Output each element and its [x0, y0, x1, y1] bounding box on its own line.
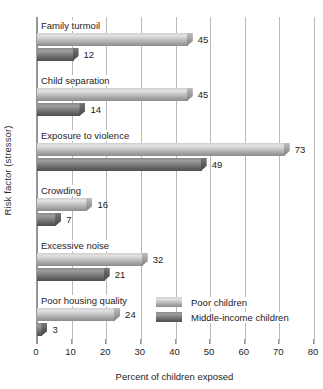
y-axis-title-label: Risk factor (stressor) — [3, 125, 14, 215]
plot-area: Family turmoil4512Child separation4514Ex… — [36, 17, 313, 344]
bar[interactable] — [37, 103, 85, 116]
x-tick-label: 20 — [100, 346, 111, 357]
x-tick-70 — [278, 339, 279, 344]
x-tick-label: 80 — [308, 346, 319, 357]
bar-tip — [142, 253, 148, 266]
gridline-0 — [37, 17, 38, 344]
bar[interactable] — [37, 143, 290, 156]
bar-value-label: 32 — [150, 253, 164, 266]
bar-body — [37, 143, 285, 156]
gridline-80 — [314, 17, 315, 344]
x-tick-label: 70 — [273, 346, 284, 357]
bar-value-label: 12 — [81, 48, 95, 61]
category-label: Exposure to violence — [40, 130, 131, 141]
bar-body — [37, 33, 188, 46]
x-tick-label: 50 — [204, 346, 215, 357]
bar-row: 45 — [37, 88, 313, 101]
gridline-40 — [176, 17, 177, 344]
bar-tip — [104, 268, 110, 281]
bar-tip — [284, 143, 290, 156]
legend-swatch — [156, 312, 182, 322]
bar[interactable] — [37, 158, 207, 171]
bar-value-label: 45 — [195, 88, 209, 101]
bar[interactable] — [37, 268, 110, 281]
bar-chart: Risk factor (stressor) Family turmoil451… — [0, 0, 323, 389]
bar-value-label: 73 — [292, 143, 306, 156]
x-tick-label: 0 — [33, 346, 38, 357]
x-axis-title: Percent of children exposed — [36, 371, 313, 382]
gridline-50 — [210, 17, 211, 344]
chart-legend: Poor childrenMiddle-income children — [156, 296, 291, 326]
bar[interactable] — [37, 213, 61, 226]
x-tick-0 — [36, 339, 37, 344]
x-tick-30 — [140, 339, 141, 344]
bar-tip — [41, 323, 47, 336]
x-tick-20 — [105, 339, 106, 344]
bar-body — [37, 198, 87, 211]
category-label: Crowding — [40, 185, 83, 196]
bar-value-label: 21 — [112, 268, 126, 281]
bar[interactable] — [37, 88, 193, 101]
category-label: Family turmoil — [40, 20, 102, 31]
x-tick-label: 40 — [169, 346, 180, 357]
gridline-30 — [141, 17, 142, 344]
bar-body — [37, 88, 188, 101]
category-label: Child separation — [40, 75, 112, 86]
x-tick-80 — [313, 339, 314, 344]
bar-row: 45 — [37, 33, 313, 46]
bar[interactable] — [37, 48, 79, 61]
category-label: Excessive noise — [40, 240, 111, 251]
bar-tip — [201, 158, 207, 171]
bar-value-label: 3 — [49, 323, 57, 336]
x-tick-60 — [244, 339, 245, 344]
bar-row: 21 — [37, 268, 313, 281]
x-tick-10 — [71, 339, 72, 344]
bar-body — [37, 268, 105, 281]
bar[interactable] — [37, 308, 120, 321]
bar-tip — [187, 88, 193, 101]
category-label: Poor housing quality — [40, 295, 129, 306]
bar-body — [37, 103, 80, 116]
bar[interactable] — [37, 323, 47, 336]
gridline-70 — [279, 17, 280, 344]
bar-row: 32 — [37, 253, 313, 266]
x-tick-40 — [175, 339, 176, 344]
bar-tip — [86, 198, 92, 211]
bar-tip — [187, 33, 193, 46]
x-tick-label: 30 — [135, 346, 146, 357]
bar-tip — [114, 308, 120, 321]
bar-tip — [73, 48, 79, 61]
gridline-60 — [245, 17, 246, 344]
bar-value-label: 49 — [209, 158, 223, 171]
x-tick-50 — [209, 339, 210, 344]
bar-row: 7 — [37, 213, 313, 226]
legend-item[interactable]: Middle-income children — [156, 311, 291, 323]
bar-tip — [79, 103, 85, 116]
x-tick-label: 10 — [65, 346, 76, 357]
x-axis: 01020304050607080 — [36, 344, 313, 345]
legend-label: Poor children — [189, 297, 249, 308]
bar-body — [37, 308, 115, 321]
bar-body — [37, 158, 202, 171]
bar[interactable] — [37, 253, 148, 266]
legend-label: Middle-income children — [189, 312, 291, 323]
bar-row: 14 — [37, 103, 313, 116]
legend-item[interactable]: Poor children — [156, 296, 291, 308]
bar-value-label: 16 — [94, 198, 108, 211]
bar-row: 12 — [37, 48, 313, 61]
bar-row: 49 — [37, 158, 313, 171]
bar-value-label: 24 — [122, 308, 136, 321]
bar-body — [37, 48, 74, 61]
bar-body — [37, 213, 56, 226]
bar-body — [37, 253, 143, 266]
bar[interactable] — [37, 198, 92, 211]
bar-value-label: 7 — [63, 213, 71, 226]
bar-value-label: 45 — [195, 33, 209, 46]
bar-row: 73 — [37, 143, 313, 156]
legend-swatch — [156, 297, 182, 307]
bar[interactable] — [37, 33, 193, 46]
x-tick-label: 60 — [238, 346, 249, 357]
bar-value-label: 14 — [87, 103, 101, 116]
bar-tip — [55, 213, 61, 226]
y-axis-title: Risk factor (stressor) — [0, 0, 16, 340]
